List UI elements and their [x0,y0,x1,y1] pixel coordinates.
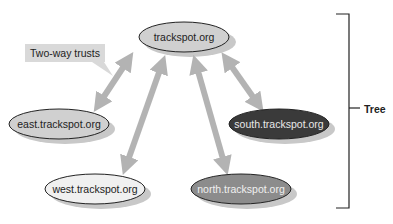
node-south-label: south.trackspot.org [234,118,323,130]
arrow-root-south [227,60,258,104]
tree-bracket [336,14,349,208]
node-east-label: east.trackspot.org [17,118,100,130]
node-root-label: trackspot.org [154,31,215,43]
two-way-trusts-callout: Two-way trusts [25,44,105,62]
arrow-root-north [196,64,225,166]
node-west-label: west.trackspot.org [52,183,137,195]
trust-arrows [99,60,258,166]
node-north-label: north.trackspot.org [197,183,285,195]
tree-label: Tree [364,103,386,115]
arrow-root-west [126,64,162,166]
